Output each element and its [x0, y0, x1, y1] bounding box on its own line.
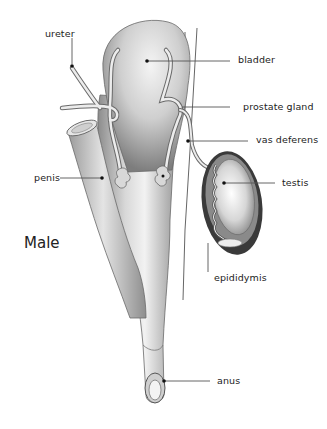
testis-shape: [195, 147, 269, 258]
label-vas-deferens: vas deferens: [256, 135, 318, 145]
anatomy-illustration: [0, 0, 327, 429]
label-bladder: bladder: [238, 55, 275, 65]
label-anus: anus: [217, 376, 240, 386]
label-ureter: ureter: [45, 29, 75, 39]
label-testis: testis: [282, 178, 308, 188]
diagram-title: Male: [24, 236, 60, 251]
reproductive-anatomy-diagram: ureter bladder prostate gland vas defere…: [0, 0, 327, 429]
label-penis: penis: [34, 173, 60, 183]
label-prostate-gland: prostate gland: [243, 102, 314, 112]
vas-deferens-highlight: [180, 110, 215, 168]
label-epididymis: epididymis: [214, 273, 267, 283]
